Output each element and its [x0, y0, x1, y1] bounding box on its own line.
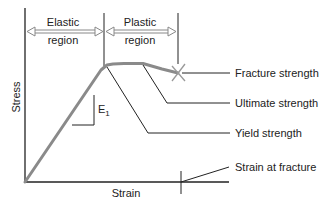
- slope-label: E1: [98, 103, 110, 118]
- plastic-region-label-1: Plastic: [124, 16, 157, 28]
- stress-strain-curve: [25, 64, 178, 183]
- elastic-region-label-1: Elastic: [47, 16, 80, 28]
- strain-at-fracture-label: Strain at fracture: [235, 161, 316, 173]
- ultimate-strength-label: Ultimate strength: [235, 97, 318, 109]
- plastic-region-label-2: region: [125, 34, 156, 46]
- elastic-region-label-2: region: [48, 34, 79, 46]
- yield-leader: [107, 67, 230, 133]
- fracture-strength-label: Fracture strength: [235, 67, 319, 79]
- ultimate-leader: [143, 65, 230, 103]
- stress-strain-diagram: Elastic region Plastic region E1 Fractur…: [0, 0, 323, 205]
- strain-fracture-leader: [181, 167, 229, 182]
- yield-strength-label: Yield strength: [235, 127, 302, 139]
- x-axis-label: Strain: [112, 187, 141, 199]
- y-axis-label: Stress: [10, 81, 22, 113]
